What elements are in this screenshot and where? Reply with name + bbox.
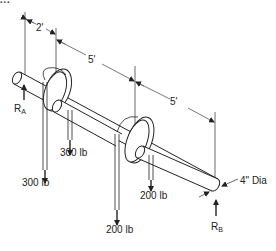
dim-label-5ft-b: 5' <box>170 96 178 107</box>
shaft-pulley-diagram: 2' 5' 5' <box>0 0 276 251</box>
dim-label-2ft: 2' <box>36 22 44 33</box>
reaction-label-ra: RA <box>14 103 26 115</box>
load-label-300-right: 300 lb <box>60 147 88 158</box>
shaft-diameter-label: 4" Dia <box>240 175 267 186</box>
dim-label-5ft-a: 5' <box>88 54 96 65</box>
load-label-200-left: 200 lb <box>106 224 134 235</box>
load-label-300-left: 300 lb <box>22 177 50 188</box>
load-label-200-right: 200 lb <box>140 190 168 201</box>
reaction-label-rb: RB <box>211 221 223 233</box>
